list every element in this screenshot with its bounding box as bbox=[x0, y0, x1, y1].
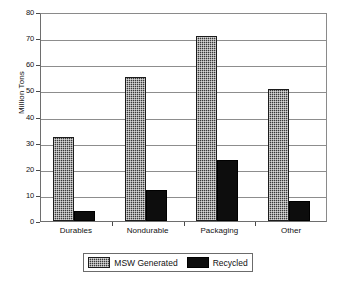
y-tick-label: 20 bbox=[12, 166, 34, 174]
legend-swatch-msw-generated bbox=[88, 257, 110, 268]
plot-area bbox=[40, 13, 327, 222]
legend-item-msw-generated: MSW Generated bbox=[88, 257, 177, 268]
legend-swatch-recycled bbox=[187, 257, 209, 268]
x-category-label: Nondurable bbox=[112, 226, 184, 236]
x-category-label: Other bbox=[255, 226, 327, 236]
y-tick-label: 40 bbox=[12, 114, 34, 122]
bar-msw-generated bbox=[268, 89, 289, 221]
y-tick-label: 60 bbox=[12, 61, 34, 69]
y-tick-label: 70 bbox=[12, 35, 34, 43]
x-category-label: Packaging bbox=[184, 226, 256, 236]
bar-chart: Million Tons 01020304050607080 DurablesN… bbox=[0, 0, 338, 283]
x-category-label: Durables bbox=[40, 226, 112, 236]
bar-recycled bbox=[289, 201, 310, 221]
bar-recycled bbox=[217, 160, 238, 221]
legend-label-msw-generated: MSW Generated bbox=[114, 258, 177, 268]
bar-msw-generated bbox=[53, 137, 74, 221]
bar-recycled bbox=[74, 211, 95, 221]
y-tick-label: 30 bbox=[12, 140, 34, 148]
chart-legend: MSW Generated Recycled bbox=[83, 253, 253, 272]
y-tick-label: 50 bbox=[12, 87, 34, 95]
y-tick-mark bbox=[36, 222, 40, 223]
y-tick-label: 10 bbox=[12, 192, 34, 200]
y-tick-label: 0 bbox=[12, 218, 34, 226]
bar-recycled bbox=[146, 190, 167, 221]
legend-label-recycled: Recycled bbox=[213, 258, 248, 268]
bar-msw-generated bbox=[125, 77, 146, 221]
y-tick-label: 80 bbox=[12, 9, 34, 17]
legend-item-recycled: Recycled bbox=[187, 257, 248, 268]
bars-layer bbox=[41, 14, 326, 221]
bar-msw-generated bbox=[196, 36, 217, 221]
